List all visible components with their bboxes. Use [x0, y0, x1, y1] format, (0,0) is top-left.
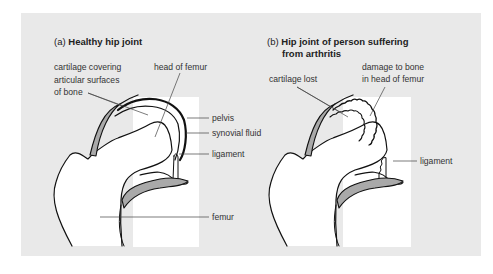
arthritic-hip-drawing [269, 95, 403, 246]
hip-joint-illustrations [0, 0, 493, 274]
healthy-hip-drawing [54, 95, 188, 246]
